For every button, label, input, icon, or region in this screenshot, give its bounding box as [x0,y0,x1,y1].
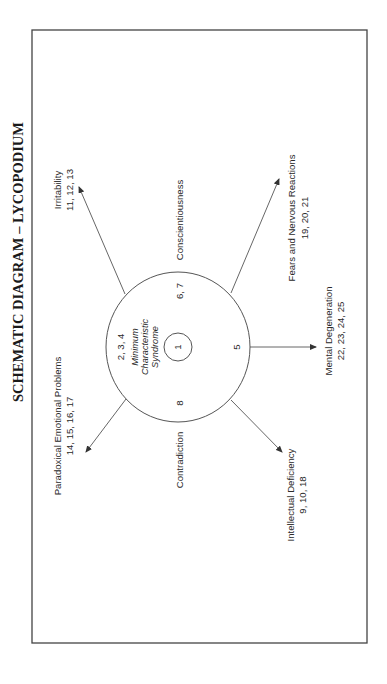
branch-label-intellectual: Intellectual Deficiency [285,448,296,541]
schematic-diagram: SCHEMATIC DIAGRAM – LYCOPODIUM 1 Minimum… [0,0,387,684]
core-label-line-1: Minimum [130,328,140,366]
branch-numbers-intellectual: 9, 10, 18 [297,476,308,513]
branch-label-irritability: Irritability [52,171,63,210]
conscientiousness-label: Conscientiousness [174,180,185,261]
core-label-line-3: Syndrome [150,326,160,368]
diagram-title: SCHEMATIC DIAGRAM – LYCOPODIUM [10,122,26,402]
arrow-paradoxical [86,399,126,452]
core-label-line-2: Characteristic [140,319,150,376]
inner-number-upper-right: 6, 7 [174,283,185,299]
contradiction-label: Contradiction [174,432,185,489]
branch-label-fears: Fears and Nervous Reactions [286,154,297,281]
inner-number-upper-left: 2, 3, 4 [115,333,126,360]
core-number: 1 [172,344,183,349]
arrow-irritability [79,187,125,294]
branch-label-mental: Mental Degeneration [323,286,334,375]
branch-numbers-fears: 19, 20, 21 [299,197,310,240]
branch-label-paradoxical: Paradoxical Emotional Problems [52,356,63,495]
branch-numbers-paradoxical: 14, 15, 16, 17 [64,397,75,456]
arrow-fears [231,179,279,293]
branch-numbers-irritability: 11, 12, 13 [64,169,75,211]
diagram-border [32,30,367,643]
inner-number-lower: 8 [174,400,185,405]
arrow-intellectual [231,400,282,452]
branch-numbers-mental: 22, 23, 24, 25 [335,302,346,361]
inner-number-right: 5 [231,344,242,349]
